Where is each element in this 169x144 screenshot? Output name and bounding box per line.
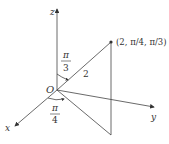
radius-label: 2: [83, 69, 89, 79]
z-axis-label: z: [49, 7, 55, 17]
x-axis-label: x: [5, 123, 10, 133]
theta-denominator: 4: [52, 115, 58, 125]
y-axis: [57, 90, 154, 107]
y-axis-label: y: [150, 112, 157, 122]
phi-numerator: π: [62, 50, 70, 60]
origin-label: O: [46, 84, 54, 95]
projection-line: [57, 90, 111, 135]
phi-denominator: 3: [63, 63, 69, 73]
theta-arc: [48, 98, 64, 100]
phi-arc: [57, 74, 68, 80]
theta-numerator: π: [51, 103, 59, 113]
point-marker: [109, 40, 112, 43]
spherical-coordinates-diagram: z y x O (2, π/4, π/3) 2 π 3 π 4: [0, 0, 169, 144]
point-label: (2, π/4, π/3): [116, 37, 167, 47]
x-axis: [15, 90, 57, 126]
